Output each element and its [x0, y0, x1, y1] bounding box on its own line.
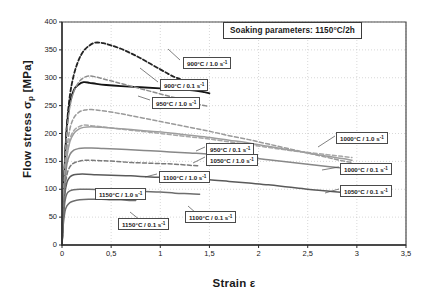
curve-callout-label: 1150°C / 0.1 s-1	[118, 218, 169, 230]
curve-callout-text: 1100°C / 0.1 s	[189, 214, 228, 221]
curve-callout-label: 1050°C / 1.0 s-1	[206, 154, 258, 166]
callout-leader-line	[196, 147, 205, 151]
curve-callout-label: 950°C / 1.0 s-1	[152, 97, 200, 109]
curve-callout-label: 1100°C / 0.1 s-1	[185, 211, 236, 223]
strain-rate-exponent: -1	[202, 174, 206, 179]
curve-callout-label: 1100°C / 1.0 s-1	[159, 171, 210, 183]
curve-callout-text: 900°C / 1.0 s	[187, 60, 223, 67]
strain-rate-exponent: -1	[161, 221, 165, 226]
strain-rate-exponent: -1	[384, 166, 388, 171]
curve-callout-text: 1000°C / 0.1 s	[344, 166, 384, 173]
curve-callout-text: 1150°C / 1.0 s	[99, 191, 138, 198]
strain-rate-exponent: -1	[200, 82, 204, 87]
curve-callout-text: 1050°C / 0.1 s	[344, 188, 384, 195]
curve-callout-label: 1150°C / 1.0 s-1	[95, 188, 146, 200]
series-line	[62, 174, 352, 245]
flow-stress-strain-chart: Flow stress σp [MPa] Strain ε 0501001502…	[0, 0, 427, 302]
curve-callout-label: 900°C / 1.0 s-1	[183, 57, 231, 69]
curve-callout-text: 1050°C / 1.0 s	[210, 157, 250, 164]
curve-callout-label: 1000°C / 1.0 s-1	[336, 132, 388, 144]
soaking-parameters-box: Soaking parameters: 1150°C/2h	[223, 22, 362, 39]
curve-callout-text: 1000°C / 1.0 s	[340, 135, 380, 142]
curve-callout-label: 900°C / 0.1 s-1	[160, 79, 208, 91]
curve-callout-text: 950°C / 1.0 s	[156, 100, 192, 107]
strain-rate-exponent: -1	[138, 191, 142, 196]
series-line	[62, 42, 180, 245]
strain-rate-exponent: -1	[246, 146, 250, 151]
strain-rate-exponent: -1	[384, 188, 388, 193]
callout-leader-line	[138, 96, 150, 100]
curve-callout-text: 1150°C / 0.1 s	[122, 221, 161, 228]
callout-leader-line	[168, 49, 180, 60]
curve-callout-label: 1050°C / 0.1 s-1	[340, 185, 392, 197]
strain-rate-exponent: -1	[250, 157, 254, 162]
curve-callout-text: 1100°C / 1.0 s	[163, 174, 202, 181]
strain-rate-exponent: -1	[228, 214, 232, 219]
strain-rate-exponent: -1	[380, 135, 384, 140]
curve-callout-text: 900°C / 0.1 s	[164, 82, 200, 89]
curve-callout-text: 950°C / 0.1 s	[210, 146, 246, 153]
strain-rate-exponent: -1	[192, 100, 196, 105]
strain-rate-exponent: -1	[223, 60, 227, 65]
callout-leader-line	[140, 68, 158, 82]
callout-leader-line	[318, 136, 335, 147]
callout-leader-line	[193, 157, 205, 163]
curve-callout-label: 1000°C / 0.1 s-1	[340, 163, 392, 175]
